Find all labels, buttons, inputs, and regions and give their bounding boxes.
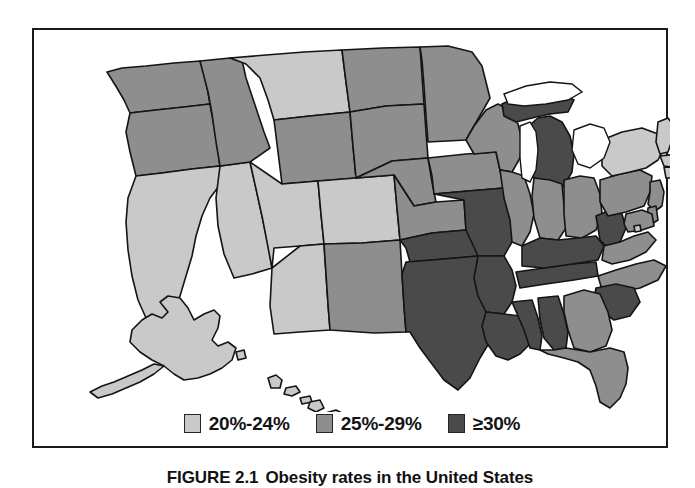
state-AK-aleutians: [90, 364, 164, 398]
legend-label-low: 20%-24%: [209, 414, 290, 433]
state-FL: [540, 348, 628, 408]
state-OH: [564, 176, 602, 238]
state-PA: [600, 170, 652, 216]
figure-caption-title: Obesity rates in the United States: [265, 468, 533, 487]
us-choropleth-map: [34, 30, 670, 412]
legend-label-mid: 25%-29%: [341, 414, 422, 433]
state-ND: [342, 47, 424, 112]
legend-swatch-mid-icon: [316, 414, 333, 433]
legend-swatch-low-icon: [184, 414, 201, 433]
legend-swatch-high-icon: [448, 414, 465, 433]
legend-item-mid: 25%-29%: [316, 414, 422, 433]
state-IN: [532, 178, 566, 240]
state-DC: [634, 225, 641, 232]
state-CO: [318, 175, 400, 244]
legend-item-high: ≥30%: [448, 414, 521, 433]
legend-item-low: 20%-24%: [184, 414, 290, 433]
map-svg: [34, 30, 670, 412]
state-WY: [274, 112, 356, 184]
state-NM: [324, 240, 406, 333]
state-AK-islands: [236, 350, 246, 360]
state-HI-oahu: [284, 386, 300, 396]
state-VT: [656, 118, 670, 154]
state-HI-kauai: [268, 375, 282, 388]
state-OR: [126, 104, 220, 176]
legend-label-high: ≥30%: [473, 414, 521, 433]
state-NY: [602, 128, 664, 176]
state-CT: [664, 167, 670, 178]
figure-frame: 20%-24% 25%-29% ≥30%: [32, 28, 668, 448]
state-AZ: [270, 244, 330, 334]
figure-caption: FIGURE 2.1Obesity rates in the United St…: [32, 468, 668, 488]
state-IA: [428, 152, 504, 194]
map-legend: 20%-24% 25%-29% ≥30%: [34, 406, 670, 440]
state-MA: [660, 154, 670, 168]
figure-caption-number: FIGURE 2.1: [167, 468, 259, 487]
